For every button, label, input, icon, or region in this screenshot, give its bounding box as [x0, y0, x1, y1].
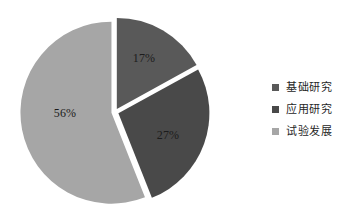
legend-item-basic[interactable]: 基础研究	[272, 76, 356, 98]
legend-swatch-icon	[272, 128, 279, 135]
slice-label-applied: 27%	[157, 129, 180, 141]
legend-label-applied: 应用研究	[286, 104, 332, 115]
legend-label-basic: 基础研究	[286, 82, 332, 93]
legend-item-experimental[interactable]: 试验发展	[272, 120, 356, 142]
legend-item-applied[interactable]: 应用研究	[272, 98, 356, 120]
pie-chart: 17% 27% 56% 基础研究 应用研究 试验发展	[0, 0, 356, 217]
legend-swatch-icon	[272, 106, 279, 113]
legend-swatch-icon	[272, 84, 279, 91]
legend: 基础研究 应用研究 试验发展	[272, 76, 356, 142]
pie-plot-area: 17% 27% 56%	[0, 0, 240, 217]
pie-svg	[0, 0, 240, 217]
slice-label-experimental: 56%	[54, 107, 77, 119]
legend-label-experimental: 试验发展	[286, 126, 332, 137]
slice-label-basic: 17%	[133, 52, 156, 64]
